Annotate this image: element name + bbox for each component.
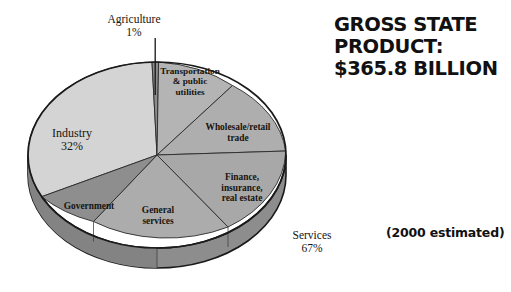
chart-title-line-1: GROSS STATE (334, 14, 506, 36)
pie-chart: Agriculture 1% Transportation & public u… (0, 0, 330, 292)
chart-subtitle: (2000 estimated) (386, 225, 504, 240)
chart-title-line-2: PRODUCT: (334, 36, 506, 58)
pie-chart-svg (0, 0, 330, 292)
chart-title-line-3: $365.8 BILLION (334, 58, 506, 80)
chart-page: Agriculture 1% Transportation & public u… (0, 0, 511, 292)
chart-title: GROSS STATE PRODUCT: $365.8 BILLION (334, 14, 506, 80)
